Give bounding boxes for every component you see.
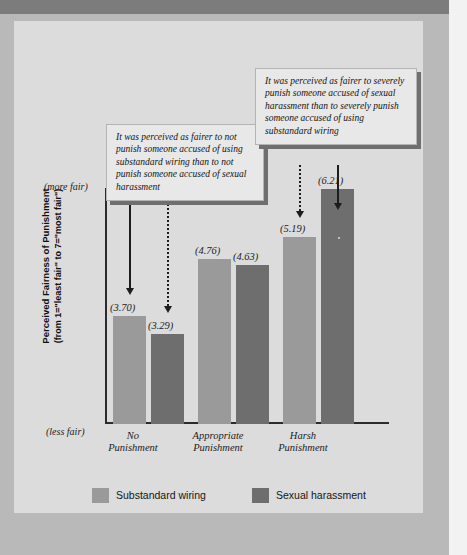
- bar-value-substandard-appropriate-punishment: (4.76): [195, 245, 220, 256]
- legend-label-sexual-harassment: Sexual harassment: [276, 489, 366, 501]
- bar-value-harassment-appropriate-punishment: (4.63): [233, 251, 258, 262]
- bar-value-substandard-harsh-punishment: (5.19): [280, 223, 305, 234]
- paper-speck: [338, 237, 340, 239]
- plot-area: (more fair) (less fair) Perceived Fairne…: [14, 21, 423, 513]
- bar-value-harassment-no-punishment: (3.29): [148, 320, 173, 331]
- page-right-margin: [449, 0, 467, 555]
- top-banner: [0, 0, 467, 14]
- bar-harassment-appropriate-punishment[interactable]: [236, 265, 269, 424]
- bar-substandard-no-punishment[interactable]: [113, 316, 146, 424]
- callout-harsh-punishment: It was perceived as fairer to severely p…: [255, 68, 417, 145]
- x-tick-label-harsh-punishment: HarshPunishment: [258, 430, 348, 454]
- callout-no-punishment: It was perceived as fairer to not punish…: [106, 124, 264, 201]
- legend-swatch-substandard-wiring: [92, 488, 109, 503]
- y-axis-title-line1: Perceived Fairness of Punishment: [40, 181, 52, 351]
- y-axis-title: Perceived Fairness of Punishment (from 1…: [40, 181, 64, 351]
- y-axis-line: [105, 188, 107, 424]
- x-tick-label-no-punishment: NoPunishment: [88, 430, 178, 454]
- bar-harassment-harsh-punishment[interactable]: [321, 189, 354, 424]
- bar-substandard-appropriate-punishment[interactable]: [198, 259, 231, 424]
- legend-swatch-sexual-harassment: [252, 488, 269, 503]
- bar-value-substandard-no-punishment: (3.70): [110, 302, 135, 313]
- bar-harassment-no-punishment[interactable]: [151, 334, 184, 424]
- bar-value-harassment-harsh-punishment: (6.21): [318, 175, 343, 186]
- y-axis-bottom-label: (less fair): [46, 426, 85, 437]
- x-tick-label-appropriate-punishment: AppropriatePunishment: [173, 430, 263, 454]
- legend-label-substandard-wiring: Substandard wiring: [116, 489, 206, 501]
- y-axis-title-line2: (from 1="least fair" to 7="most fair"): [52, 181, 64, 351]
- figure-panel: (more fair) (less fair) Perceived Fairne…: [14, 21, 423, 513]
- bar-substandard-harsh-punishment[interactable]: [283, 237, 316, 424]
- legend: Substandard wiring Sexual harassment: [92, 487, 382, 511]
